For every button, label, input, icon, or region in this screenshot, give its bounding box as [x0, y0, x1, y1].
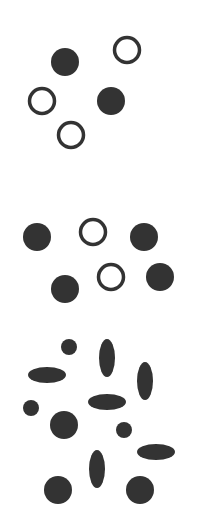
shape-diagram — [0, 0, 206, 506]
ring-shape — [59, 123, 84, 148]
ellipse-shape — [137, 362, 153, 400]
filled-circle-shape — [44, 476, 72, 504]
ellipse-shape — [28, 367, 66, 383]
ellipse-shape — [137, 444, 175, 460]
group-3 — [23, 339, 175, 504]
filled-circle-shape — [130, 223, 158, 251]
filled-circle-shape — [50, 411, 78, 439]
ring-shape — [115, 38, 140, 63]
ring-shape — [81, 220, 106, 245]
filled-circle-shape — [23, 223, 51, 251]
group-1 — [30, 38, 140, 148]
ring-shape — [99, 265, 124, 290]
filled-circle-shape — [126, 476, 154, 504]
filled-circle-shape — [146, 263, 174, 291]
ellipse-shape — [89, 450, 105, 488]
filled-circle-shape — [61, 339, 77, 355]
filled-circle-shape — [51, 48, 79, 76]
ring-shape — [30, 89, 55, 114]
ellipse-shape — [99, 339, 115, 377]
group-2 — [23, 220, 174, 304]
filled-circle-shape — [23, 400, 39, 416]
filled-circle-shape — [97, 87, 125, 115]
ellipse-shape — [88, 394, 126, 410]
filled-circle-shape — [51, 275, 79, 303]
filled-circle-shape — [116, 422, 132, 438]
